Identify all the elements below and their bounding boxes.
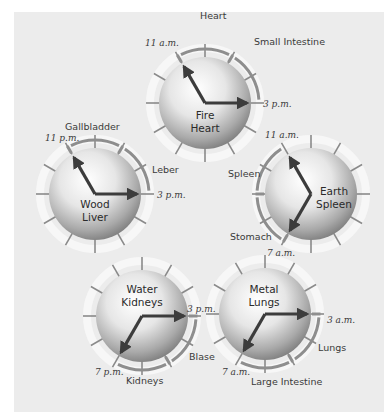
metal-lungs-label: Lungs [318,342,346,353]
earth-stomach-label: Stomach [230,231,272,242]
wood-time-11pm: 11 p.m. [45,133,79,143]
metal-clock [206,255,324,373]
fire-small-intestine-label: Small Intestine [254,36,325,47]
water-organ-label: Kidneys [121,296,162,308]
water-clock [83,257,201,375]
earth-spleen-label: Spleen [228,168,260,179]
water-blase-label: Blase [189,351,215,362]
water-time-7pm: 7 p.m. [95,367,124,377]
earth-time-11am: 11 a.m. [265,130,299,140]
water-time-3pm: 3 p.m. [187,304,216,314]
metal-organ-label: Lungs [248,296,279,308]
wood-time-3pm: 3 p.m. [157,190,186,200]
fire-organ-label: Heart [190,122,219,134]
fire-time-3pm: 3 p.m. [263,99,292,109]
earth-organ-label: Spleen [316,198,352,210]
wood-organ-label: Liver [82,211,108,223]
fire-heart-label: Heart [200,10,227,21]
wood-clock [36,135,154,253]
earth-element-label: Earth [320,185,348,197]
organ-clock-diagram: Heart Small Intestine 11 a.m. 3 p.m. Fir… [0,0,388,419]
fire-element-label: Fire [196,109,215,121]
metal-large-intestine-label: Large Intestine [251,376,322,387]
metal-time-3am: 3 a.m. [327,315,355,325]
wood-element-label: Wood [80,198,109,210]
water-kidneys-label: Kidneys [126,375,163,386]
fire-time-11am: 11 a.m. [145,38,179,48]
wood-leber-label: Leber [152,164,179,175]
fire-clock [146,44,264,162]
water-element-label: Water [126,283,158,295]
earth-time-7am: 7 a.m. [267,248,295,258]
metal-time-7am: 7 a.m. [222,367,250,377]
wood-gallbladder-label: Gallbladder [65,121,120,132]
metal-element-label: Metal [250,283,279,295]
